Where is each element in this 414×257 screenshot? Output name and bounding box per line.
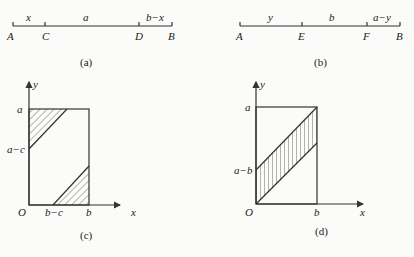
segment-label-y: y (267, 11, 273, 23)
panel-b: y b a−y A E F B (b) (235, 11, 403, 69)
y-tick-a: a (245, 101, 251, 113)
point-D: D (134, 30, 143, 42)
caption-a: (a) (80, 56, 93, 69)
point-E: E (297, 30, 305, 42)
segment-label-a: a (83, 11, 89, 23)
panel-a: x a b−x A C D B (a) (6, 11, 175, 69)
point-B: B (168, 30, 175, 42)
panel-d: y x a a−b O b (d) (234, 78, 365, 238)
segment-label-b: b (329, 11, 335, 23)
x-tick-b: b (86, 206, 92, 218)
point-B: B (396, 30, 403, 42)
segment-label-x: x (25, 11, 31, 23)
point-C: C (42, 30, 50, 42)
caption-b: (b) (314, 56, 327, 69)
diagram-canvas: x a b−x A C D B (a) y b a−y A E F B (b) … (0, 0, 414, 257)
y-axis-label: y (259, 78, 265, 90)
point-A: A (6, 30, 14, 42)
y-tick-a-minus-c: a−c (7, 143, 25, 155)
hatched-band (256, 107, 317, 204)
panel-c: y x a a−c O b−c b (c) (7, 78, 136, 242)
x-tick-b: b (314, 206, 320, 218)
point-F: F (362, 30, 370, 42)
x-axis-label: x (130, 206, 136, 218)
segment-label-a-minus-y: a−y (373, 11, 391, 23)
origin-label: O (18, 206, 26, 218)
y-axis-label: y (32, 78, 38, 90)
x-axis-label: x (359, 206, 365, 218)
y-tick-a-minus-b: a−b (234, 164, 253, 176)
y-tick-a: a (17, 103, 23, 115)
caption-d: (d) (315, 225, 328, 238)
segment-label-b-minus-x: b−x (146, 11, 164, 23)
point-A: A (235, 30, 243, 42)
x-tick-b-minus-c: b−c (45, 206, 63, 218)
caption-c: (c) (80, 229, 93, 242)
origin-label: O (245, 206, 253, 218)
